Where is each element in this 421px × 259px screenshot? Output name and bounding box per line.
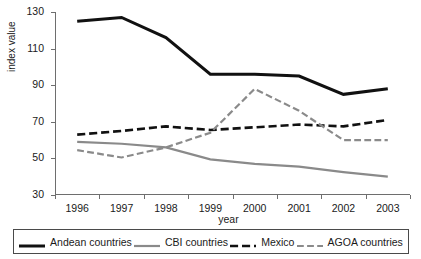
x-tick: [55, 195, 56, 199]
legend-item[interactable]: CBI countries: [134, 236, 228, 248]
x-tick: [410, 195, 411, 199]
legend-swatch: [134, 237, 160, 247]
legend-label: AGOA countries: [328, 236, 403, 248]
legend-item[interactable]: Mexico: [230, 236, 294, 248]
cropped-title-remnant: [24, 0, 164, 5]
legend-label: Mexico: [261, 236, 294, 248]
y-tick-label: 70: [14, 115, 44, 127]
y-tick-label: 50: [14, 151, 44, 163]
plot-area: [55, 12, 410, 195]
legend-item[interactable]: AGOA countries: [297, 236, 403, 248]
x-tick: [144, 195, 145, 199]
x-tick: [366, 195, 367, 199]
x-tick: [277, 195, 278, 199]
legend-swatch: [297, 237, 323, 247]
y-tick-label: 110: [14, 42, 44, 54]
x-tick: [99, 195, 100, 199]
y-tick-label: 30: [14, 188, 44, 200]
x-tick: [188, 195, 189, 199]
chart-legend: Andean countriesCBI countriesMexicoAGOA …: [13, 229, 409, 254]
series-lines: [55, 12, 410, 195]
x-tick: [233, 195, 234, 199]
y-tick-label: 130: [14, 5, 44, 17]
chart-figure: index value 30507090110130 1996199719981…: [0, 0, 421, 259]
legend-item[interactable]: Andean countries: [19, 236, 132, 248]
legend-swatch: [19, 237, 45, 247]
series-line: [77, 120, 388, 135]
legend-label: Andean countries: [50, 236, 132, 248]
x-axis-title-text: year: [218, 213, 238, 225]
y-tick-label: 90: [14, 78, 44, 90]
series-line: [77, 142, 388, 177]
series-line: [77, 17, 388, 94]
x-axis-title: year: [0, 213, 421, 225]
legend-swatch: [230, 237, 256, 247]
legend-label: CBI countries: [165, 236, 228, 248]
series-line: [77, 89, 388, 158]
x-tick: [321, 195, 322, 199]
